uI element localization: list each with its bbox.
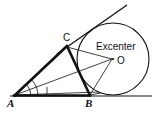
label-point-o: O [117,56,125,66]
geometry-canvas [0,0,154,115]
bisector-b-to-o [90,59,112,95]
excenter-geometry-figure: A B C O Excenter [0,0,154,115]
label-vertex-a: A [7,98,14,109]
label-vertex-c: C [63,33,70,43]
label-excenter-annotation: Excenter [96,42,135,52]
triangle-side-ac [15,46,68,96]
excenter-point-marker [112,58,114,60]
ray-b-to-tangentpoint [90,93,101,95]
triangle-side-cb [67,46,90,96]
label-vertex-b: B [85,98,92,109]
